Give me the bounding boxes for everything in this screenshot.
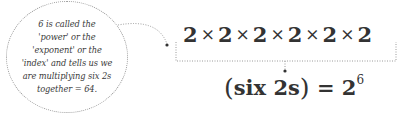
result-label: six 2s <box>234 75 300 100</box>
connector-dot <box>165 43 168 46</box>
times-sign: × <box>305 24 319 44</box>
power-base: 2 <box>342 75 357 100</box>
times-sign: × <box>236 24 250 44</box>
factor: 2 <box>218 22 233 47</box>
factor: 2 <box>253 22 268 47</box>
times-sign: × <box>270 24 284 44</box>
equals-sign: = <box>317 75 335 100</box>
close-paren: ) <box>300 73 310 102</box>
power-exponent: 6 <box>356 73 364 87</box>
bubble-connector-arc <box>118 24 167 44</box>
multiplication-expression: 2×2×2×2×2×2 <box>183 22 372 50</box>
times-sign: × <box>340 24 354 44</box>
factor: 2 <box>323 22 338 47</box>
open-paren: ( <box>224 73 234 102</box>
factor: 2 <box>183 22 198 47</box>
factor: 2 <box>357 22 372 47</box>
factor: 2 <box>288 22 303 47</box>
times-sign: × <box>201 24 215 44</box>
result-expression: (six 2s) = 26 <box>224 72 364 101</box>
